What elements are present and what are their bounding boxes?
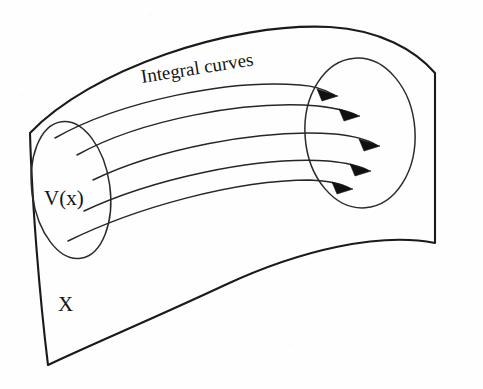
arrowhead-2 <box>339 109 360 121</box>
label-vector-field: V(x) <box>44 186 84 210</box>
diagram-canvas: Integral curves V(x) X <box>0 0 483 389</box>
arrowhead-4 <box>350 164 371 176</box>
integral-curve-3 <box>93 133 376 180</box>
arrowhead-5 <box>332 182 353 194</box>
arrowhead-3 <box>359 139 380 151</box>
integral-curve-4 <box>84 160 367 211</box>
label-integral-curves: Integral curves <box>139 48 254 86</box>
manifold-outline <box>30 27 435 365</box>
integral-curves-figure: Integral curves V(x) X <box>0 0 483 389</box>
integral-curve-2 <box>77 105 356 155</box>
integral-curve-1 <box>55 84 334 138</box>
label-manifold: X <box>58 292 73 316</box>
